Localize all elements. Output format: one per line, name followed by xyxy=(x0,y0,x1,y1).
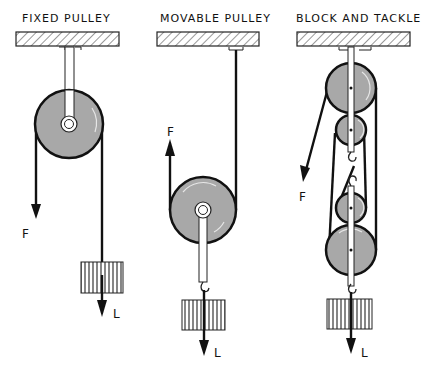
ceiling-beam xyxy=(16,32,119,46)
panel-fixed-pulley: FIXED PULLEY F L xyxy=(16,12,123,321)
load-weight xyxy=(327,299,372,329)
rope-inner-right xyxy=(364,130,366,208)
force-label: F xyxy=(299,190,306,204)
force-label: F xyxy=(167,125,174,139)
pulley-diagram: FIXED PULLEY F L MOVABLE PULLEY xyxy=(0,0,422,370)
load-label: L xyxy=(361,346,368,360)
upper-hook xyxy=(349,152,357,161)
panel-movable-pulley: MOVABLE PULLEY F L xyxy=(157,12,271,360)
panel-title-fixed-pulley: FIXED PULLEY xyxy=(22,12,111,25)
ceiling-beam xyxy=(297,32,410,46)
ceiling-beame xyxy=(157,32,259,46)
axle-dot xyxy=(350,87,353,90)
lower-top-hook xyxy=(349,176,356,186)
force-arrow-head xyxy=(300,165,310,182)
lower-block-strap xyxy=(348,186,354,286)
force-label: F xyxy=(22,227,29,241)
panel-title-movable-pulley: MOVABLE PULLEY xyxy=(160,12,271,25)
load-arrow-head xyxy=(97,300,107,317)
axle-dot xyxy=(350,129,353,132)
force-arrow-head xyxy=(165,139,175,156)
load-label: L xyxy=(214,346,221,360)
pulley-strap xyxy=(199,212,207,282)
axle-inner xyxy=(199,206,208,215)
load-arrow-head xyxy=(199,340,209,356)
panel-title-block-and-tackle: BLOCK AND TACKLE xyxy=(296,12,421,25)
axle-dot xyxy=(350,207,353,210)
panel-block-and-tackle: BLOCK AND TACKLE F xyxy=(296,12,421,360)
rope-effort xyxy=(306,88,328,170)
axle-dot xyxy=(350,249,353,252)
load-arrow-head xyxy=(346,338,356,354)
mount-bracket xyxy=(339,47,371,50)
upper-block-strap xyxy=(348,47,354,152)
mount-bracket xyxy=(229,47,243,50)
axle-inner xyxy=(65,120,74,129)
force-arrow-head xyxy=(31,204,41,219)
load-label: L xyxy=(113,307,120,321)
